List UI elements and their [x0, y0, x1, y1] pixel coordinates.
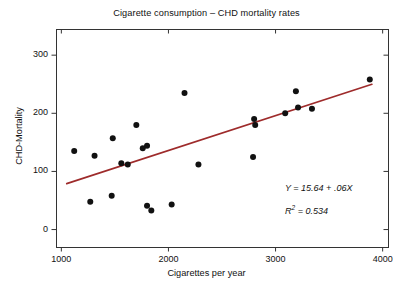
data-point	[367, 77, 373, 83]
data-point	[118, 160, 124, 166]
data-point	[309, 106, 315, 112]
data-point	[87, 199, 93, 205]
data-point	[92, 153, 98, 159]
data-point	[71, 148, 77, 154]
data-point	[182, 90, 188, 96]
data-point	[252, 122, 258, 128]
data-point	[125, 161, 131, 167]
data-point	[110, 135, 116, 141]
regression-line	[67, 84, 372, 183]
data-point	[293, 88, 299, 94]
axis-ticks	[52, 29, 389, 252]
data-point	[195, 161, 201, 167]
x-tick-label: 2000	[148, 254, 188, 264]
data-point	[282, 110, 288, 116]
chart-figure: Cigarette consumption – CHD mortality ra…	[0, 0, 413, 298]
regression-equation-annotation: Y = 15.64 + .06X	[285, 183, 352, 193]
data-point	[148, 207, 154, 213]
data-point	[250, 154, 256, 160]
x-tick-label: 4000	[363, 254, 403, 264]
x-tick-label: 3000	[256, 254, 296, 264]
data-point	[144, 143, 150, 149]
x-tick-label: 1000	[41, 254, 81, 264]
data-point	[169, 202, 175, 208]
x-axis-label: Cigarettes per year	[0, 268, 413, 278]
data-point	[251, 116, 257, 122]
plot-frame	[57, 30, 389, 248]
y-axis-label: CHD-Mortality	[14, 76, 24, 196]
data-point	[109, 193, 115, 199]
data-point	[133, 122, 139, 128]
y-tick-label: 300	[14, 49, 48, 59]
data-point	[295, 104, 301, 110]
data-point	[144, 203, 150, 209]
y-tick-label: 0	[14, 224, 48, 234]
r-squared-annotation: R2 = 0.534	[285, 204, 328, 216]
